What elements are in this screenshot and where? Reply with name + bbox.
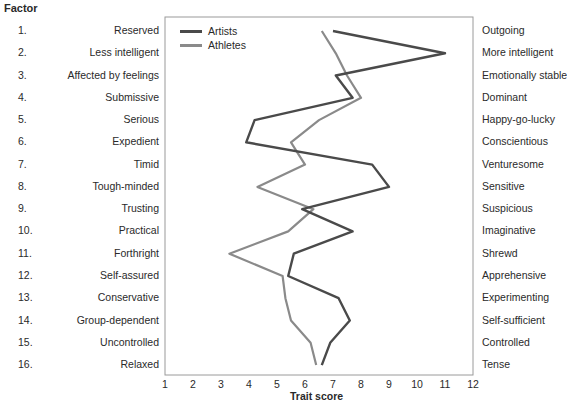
x-tick-label: 9: [379, 378, 399, 390]
artists-swatch-icon: [180, 30, 202, 33]
x-tick-label: 3: [211, 378, 231, 390]
athletes-swatch-icon: [180, 44, 202, 47]
x-tick-label: 1: [155, 378, 175, 390]
x-tick-label: 4: [239, 378, 259, 390]
x-tick-label: 8: [351, 378, 371, 390]
x-tick-label: 10: [407, 378, 427, 390]
x-tick-label: 7: [323, 378, 343, 390]
x-tick-label: 5: [267, 378, 287, 390]
x-tick-label: 2: [183, 378, 203, 390]
legend: Artists Athletes: [180, 24, 246, 52]
x-axis-label: Trait score: [290, 390, 343, 402]
artists-line: [246, 31, 445, 365]
legend-label: Athletes: [208, 39, 246, 51]
legend-item-athletes: Athletes: [180, 38, 246, 52]
plot-frame: [165, 17, 473, 375]
x-tick-label: 11: [435, 378, 455, 390]
legend-label: Artists: [208, 25, 237, 37]
x-tick-label: 12: [463, 378, 483, 390]
x-tick-label: 6: [295, 378, 315, 390]
legend-item-artists: Artists: [180, 24, 246, 38]
